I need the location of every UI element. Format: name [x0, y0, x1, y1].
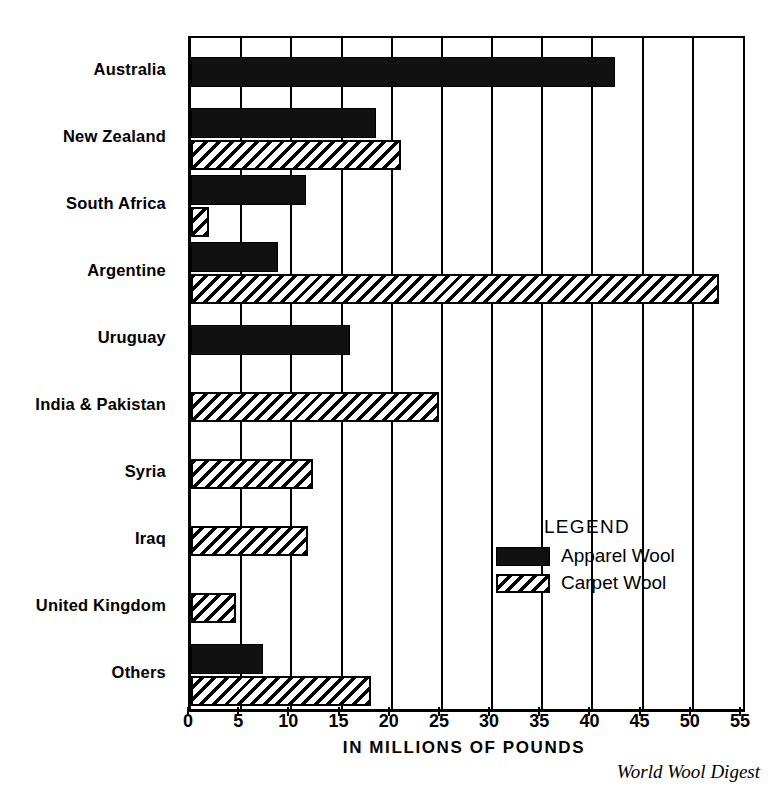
x-axis-title: IN MILLIONS OF POUNDS	[188, 738, 740, 758]
x-axis-tick-label: 30	[479, 712, 499, 730]
category-axis-labels: AustraliaNew ZealandSouth AfricaArgentin…	[0, 36, 178, 707]
category-label-uruguay: Uruguay	[98, 329, 166, 346]
x-axis-tick-label: 45	[630, 712, 650, 730]
legend-entry-carpet-wool: Carpet Wool	[496, 572, 711, 594]
x-axis-tick-label: 15	[329, 712, 349, 730]
bar-carpet-wool	[191, 392, 439, 422]
bar-apparel-wool	[191, 57, 615, 87]
bar-apparel-wool	[191, 108, 376, 138]
bar-apparel-wool	[191, 325, 350, 355]
x-axis-tick-label: 35	[529, 712, 549, 730]
category-label-south-africa: South Africa	[66, 195, 166, 212]
x-axis-tick-label: 25	[429, 712, 449, 730]
plot-area	[188, 36, 745, 712]
category-label-united-kingdom: United Kingdom	[36, 597, 166, 614]
bar-carpet-wool	[191, 676, 371, 706]
category-label-new-zealand: New Zealand	[63, 128, 166, 145]
x-axis-tick-label: 55	[730, 712, 750, 730]
bar-apparel-wool	[191, 175, 306, 205]
x-axis-tick-labels: 0510152025303540455055	[188, 712, 740, 736]
bar-carpet-wool	[191, 140, 401, 170]
legend-swatch-apparel-wool	[496, 547, 550, 566]
bars-layer	[191, 38, 743, 709]
category-label-australia: Australia	[94, 61, 166, 78]
legend-title: LEGEND	[544, 516, 711, 538]
bar-carpet-wool	[191, 526, 308, 556]
source-credit: World Wool Digest	[617, 761, 760, 783]
category-label-others: Others	[112, 664, 166, 681]
legend: LEGEND Apparel Wool Carpet Wool	[496, 516, 711, 599]
legend-label-apparel-wool: Apparel Wool	[561, 545, 675, 567]
x-axis-tick-label: 50	[680, 712, 700, 730]
category-label-syria: Syria	[125, 463, 166, 480]
bar-carpet-wool	[191, 593, 236, 623]
legend-entry-apparel-wool: Apparel Wool	[496, 545, 711, 567]
category-label-iraq: Iraq	[135, 530, 166, 547]
category-label-argentine: Argentine	[87, 262, 166, 279]
bar-apparel-wool	[191, 242, 278, 272]
x-axis-tick-label: 0	[183, 712, 193, 730]
x-axis-tick-label: 20	[379, 712, 399, 730]
category-label-india-pakistan: India & Pakistan	[35, 396, 166, 413]
bar-apparel-wool	[191, 644, 263, 674]
bar-carpet-wool	[191, 459, 313, 489]
x-axis-tick-label: 5	[233, 712, 243, 730]
legend-swatch-carpet-wool	[496, 574, 550, 593]
x-axis-tick-label: 40	[579, 712, 599, 730]
chart-page: AustraliaNew ZealandSouth AfricaArgentin…	[0, 0, 776, 797]
legend-label-carpet-wool: Carpet Wool	[561, 572, 666, 594]
x-axis-tick-label: 10	[278, 712, 298, 730]
bar-carpet-wool	[191, 274, 719, 304]
bar-carpet-wool	[191, 207, 209, 237]
